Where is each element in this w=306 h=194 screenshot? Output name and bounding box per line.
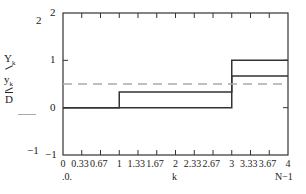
x-tick-label: 3.67 xyxy=(259,158,277,169)
x-tick-label: 0.67 xyxy=(90,158,108,169)
x-tick-label: 2 xyxy=(173,158,178,169)
legend-y2: yk xyxy=(4,73,13,88)
y-tick-label: −1 xyxy=(45,148,57,160)
x-tick-label: 1.33 xyxy=(128,158,146,169)
x-label-right: N−1 xyxy=(275,171,293,182)
x-tick-label: 0 xyxy=(60,158,65,169)
y-tick-label: 0 xyxy=(50,101,56,113)
x-tick-label: 2.33 xyxy=(184,158,202,169)
x-tick-label: 3.33 xyxy=(240,158,258,169)
x-tick-label: 2.67 xyxy=(203,158,221,169)
x-tick-label: 3 xyxy=(229,158,234,169)
x-label-left: .0. xyxy=(62,171,72,182)
y-outer-bottom-label: −1 xyxy=(27,144,39,156)
x-tick-label: 1.67 xyxy=(146,158,164,169)
y-tick-label: 2 xyxy=(50,6,56,18)
series-y-k xyxy=(63,76,288,108)
y-tick-label: 1 xyxy=(50,53,56,65)
legend-d-marker xyxy=(18,114,36,115)
x-tick-label: 1 xyxy=(117,158,122,169)
x-tick-label: 0.33 xyxy=(71,158,89,169)
legend-y1: Yk xyxy=(4,52,15,67)
x-tick-label: 4 xyxy=(285,158,290,169)
y-outer-top-label: 2 xyxy=(36,14,42,26)
x-axis-label: k xyxy=(172,171,177,182)
legend-d: D xyxy=(5,93,13,105)
